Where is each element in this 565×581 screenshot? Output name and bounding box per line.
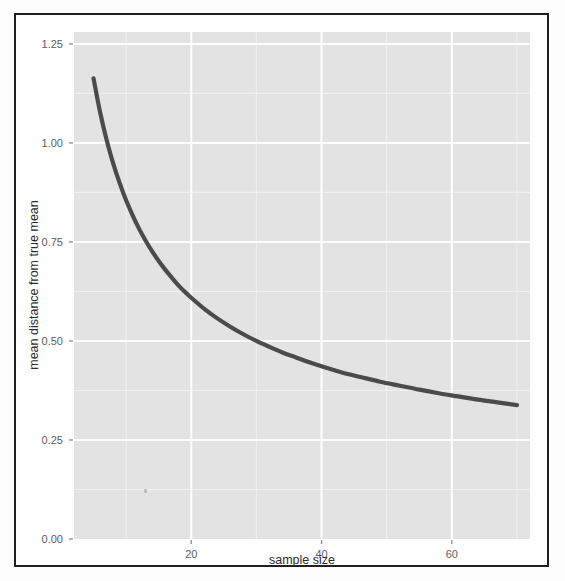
figure-frame: 0.000.250.500.751.001.25 204060 mean dis… <box>14 13 549 567</box>
x-axis-title: sample size <box>269 553 335 567</box>
y-tick-label: 0.75 <box>42 236 63 248</box>
panel-background <box>74 32 530 539</box>
y-tick-label: 0.50 <box>42 335 63 347</box>
paper-speck-artifact <box>144 489 147 493</box>
x-tick-label: 20 <box>185 548 197 560</box>
y-tick-label: 1.25 <box>42 38 63 50</box>
y-axis-title: mean distance from true mean <box>27 200 41 370</box>
x-tick-label: 60 <box>446 548 458 560</box>
figure-page: 0.000.250.500.751.001.25 204060 mean dis… <box>0 0 565 581</box>
chart-svg: 0.000.250.500.751.001.25 204060 mean dis… <box>16 15 551 569</box>
y-tick-label: 1.00 <box>42 137 63 149</box>
y-axis: 0.000.250.500.751.001.25 <box>42 38 73 545</box>
y-tick-label: 0.00 <box>42 533 63 545</box>
plot-area: 0.000.250.500.751.001.25 204060 mean dis… <box>16 15 551 569</box>
y-tick-label: 0.25 <box>42 434 63 446</box>
